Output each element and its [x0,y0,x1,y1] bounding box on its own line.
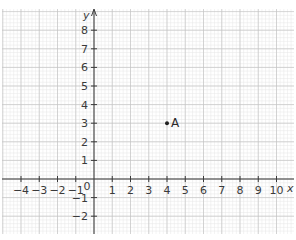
minor-grid [2,9,294,234]
y-tick-label: 8 [81,24,88,37]
x-tick-label: −4 [13,184,29,197]
x-tick-label: 1 [109,184,116,197]
major-grid [2,9,294,234]
y-tick-label: 4 [81,99,88,112]
x-axis-label: x [286,182,294,195]
y-tick-label: 3 [81,117,88,130]
x-tick-label: 10 [270,184,284,197]
x-tick-label: 7 [218,184,225,197]
point-marker [165,121,169,125]
x-tick-label: 6 [200,184,207,197]
point-label: A [171,116,180,130]
x-tick-label: 2 [127,184,134,197]
y-tick-label: −1 [72,192,88,205]
y-tick-label: 5 [81,80,88,93]
x-tick-label: 9 [255,184,262,197]
x-tick-label: 3 [145,184,152,197]
axes [2,9,294,234]
x-tick-label: 8 [237,184,244,197]
x-tick-label: 4 [164,184,171,197]
origin-label: 0 [84,180,91,193]
coordinate-grid: −4−3−2−112345678910 87654321−1−2 0 x y A [0,0,296,240]
y-tick-label: 7 [81,43,88,56]
y-axis-label: y [82,9,90,22]
x-tick-label: 5 [182,184,189,197]
y-tick-label: 2 [81,136,88,149]
y-tick-label: 6 [81,61,88,74]
y-tick-label: −2 [72,210,88,223]
x-tick-label: −2 [49,184,65,197]
y-tick-label: 1 [81,154,88,167]
x-tick-label: −3 [31,184,47,197]
